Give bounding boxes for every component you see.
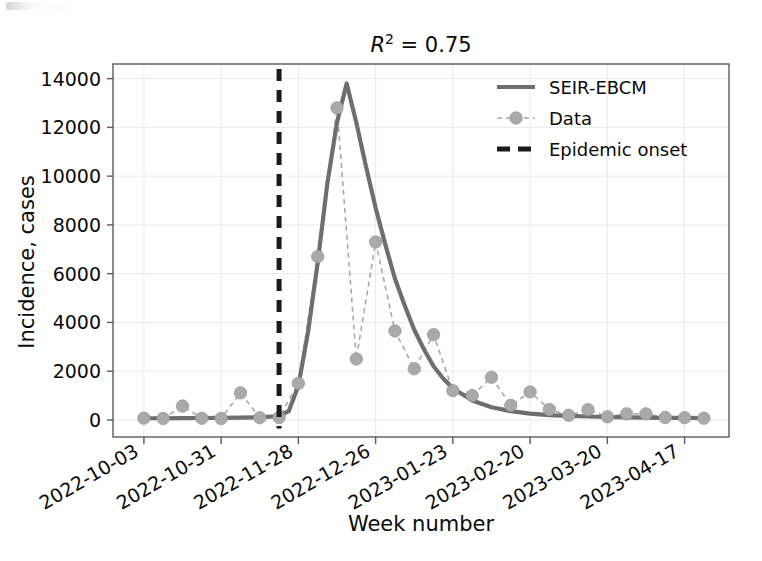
data-point-marker [292,377,304,389]
data-point-marker [582,404,594,416]
data-point-marker [620,408,632,420]
data-point-marker [331,102,343,114]
figure-container: R2 = 0.75 020004000600080001000012000140… [0,0,762,561]
data-point-marker [524,386,536,398]
data-point-marker [563,409,575,421]
data-point-marker [543,403,555,415]
data-point-marker [138,412,150,424]
data-point-marker [640,408,652,420]
data-point-marker [466,389,478,401]
data-point-marker [698,412,710,424]
data-point-marker [678,412,690,424]
data-point-marker [157,412,169,424]
data-point-marker [311,250,323,262]
data-point-marker [176,400,188,412]
data-point-marker [350,353,362,365]
y-tick-label: 2000 [53,360,101,382]
y-tick-label: 12000 [41,116,101,138]
data-point-marker [447,384,459,396]
data-point-marker [389,325,401,337]
legend-label: Data [549,108,592,129]
y-tick-label: 14000 [41,68,101,90]
data-point-marker [369,236,381,248]
data-point-marker [485,371,497,383]
data-point-marker [254,412,266,424]
data-point-marker [196,412,208,424]
incidence-chart: R2 = 0.75 020004000600080001000012000140… [0,0,762,561]
data-point-marker [234,387,246,399]
x-axis-title: Week number [348,512,495,536]
data-point-marker [215,412,227,424]
y-tick-label: 4000 [53,311,101,333]
data-point-marker [601,411,613,423]
y-axis-title: Incidence, cases [15,175,39,348]
data-point-marker [427,328,439,340]
title-exponent: 2 [385,31,394,47]
y-tick-label: 10000 [41,165,101,187]
y-tick-label: 0 [89,409,101,431]
title-value: 0.75 [425,33,472,57]
y-tick-label: 8000 [53,214,101,236]
data-point-marker [659,411,671,423]
data-point-marker [408,363,420,375]
data-point-marker [505,399,517,411]
y-tick-label: 6000 [53,263,101,285]
legend-swatch-marker [510,112,522,124]
legend-label: SEIR-EBCM [549,77,647,98]
legend-label: Epidemic onset [549,139,687,160]
title-symbol: R [370,33,385,57]
title-equals: = [394,33,425,57]
